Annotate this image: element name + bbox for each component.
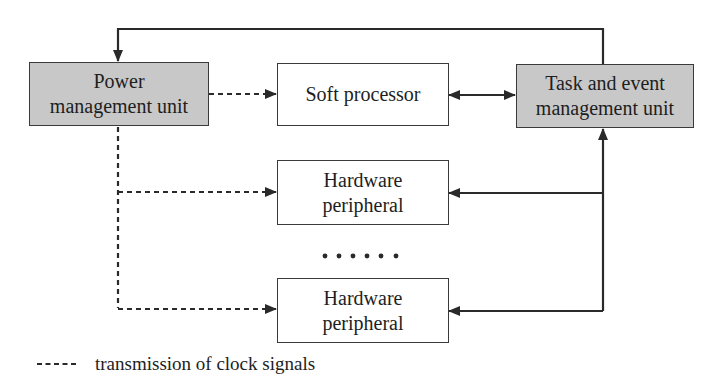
- block-diagram: Power management unit Soft processor Tas…: [0, 0, 713, 388]
- peripheral-2-label-line1: Hardware: [324, 286, 403, 311]
- ellipsis-dots: [323, 254, 399, 259]
- soft-processor-box: Soft processor: [277, 63, 449, 126]
- hardware-peripheral-box-1: Hardware peripheral: [277, 160, 449, 225]
- peripheral-1-label-line1: Hardware: [324, 168, 403, 193]
- legend-label: transmission of clock signals: [95, 351, 315, 377]
- task-unit-label-line1: Task and event: [545, 71, 665, 96]
- task-event-management-unit-box: Task and event management unit: [516, 64, 694, 128]
- soft-processor-label: Soft processor: [306, 82, 421, 107]
- feedback-loop-connector: [118, 29, 603, 64]
- hardware-peripheral-box-2: Hardware peripheral: [277, 278, 449, 343]
- peripheral-1-label-line2: peripheral: [322, 193, 403, 218]
- power-management-unit-box: Power management unit: [29, 62, 209, 126]
- power-unit-label-line1: Power: [93, 69, 144, 94]
- task-unit-label-line2: management unit: [536, 96, 674, 121]
- power-unit-label-line2: management unit: [50, 94, 188, 119]
- peripheral-2-label-line2: peripheral: [322, 311, 403, 336]
